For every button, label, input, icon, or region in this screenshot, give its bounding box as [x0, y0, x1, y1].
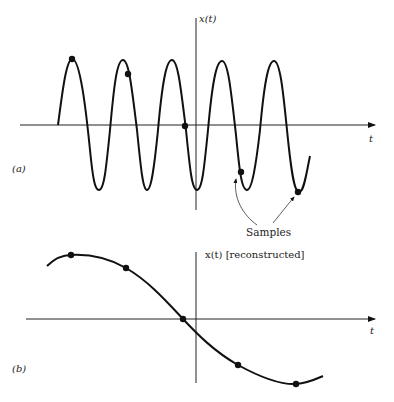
- x-axis-label-b: t: [370, 325, 375, 336]
- aliasing-diagram: x(t) t (a) Samples x(t) [reconstructed] …: [0, 0, 394, 402]
- sample-point: [69, 56, 75, 62]
- sample-point: [293, 381, 299, 387]
- x-axis-label-a: t: [369, 133, 374, 144]
- panel-a: x(t) t (a) Samples: [12, 13, 375, 238]
- annotation-arrow: [273, 197, 294, 223]
- sample-point: [235, 362, 241, 368]
- sample-point: [295, 189, 301, 195]
- panel-label-a: (a): [12, 163, 26, 174]
- samples-annotation: Samples: [246, 226, 291, 238]
- annotation-arrow: [235, 179, 257, 225]
- panel-label-b: (b): [12, 363, 26, 374]
- y-axis-label-a: x(t): [199, 13, 217, 24]
- panel-b: x(t) [reconstructed] t (b): [12, 249, 375, 387]
- y-axis-label-b: x(t) [reconstructed]: [205, 249, 305, 260]
- sample-point: [238, 169, 244, 175]
- sample-point: [182, 123, 188, 129]
- sample-point: [180, 316, 186, 322]
- sample-point: [123, 265, 129, 271]
- sample-point: [68, 252, 74, 258]
- sample-point: [125, 71, 131, 77]
